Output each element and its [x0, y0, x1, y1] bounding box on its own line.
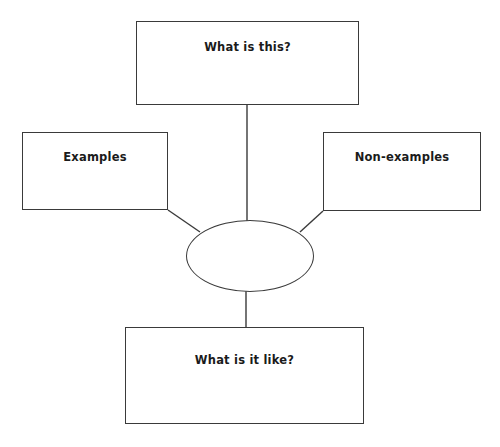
- node-what-is-this[interactable]: What is this?: [136, 21, 359, 105]
- connector-left-to-center: [168, 210, 200, 232]
- node-central-concept-ellipse[interactable]: [186, 220, 314, 292]
- node-non-examples-label: Non-examples: [324, 150, 480, 164]
- node-examples[interactable]: Examples: [22, 132, 168, 210]
- node-non-examples[interactable]: Non-examples: [323, 132, 481, 211]
- node-examples-label: Examples: [23, 150, 167, 164]
- node-what-is-this-label: What is this?: [137, 40, 358, 54]
- connector-right-to-center: [300, 211, 323, 232]
- node-what-is-it-like-label: What is it like?: [126, 353, 363, 367]
- diagram-canvas: What is this? Examples Non-examples What…: [0, 0, 500, 447]
- node-what-is-it-like[interactable]: What is it like?: [125, 327, 364, 424]
